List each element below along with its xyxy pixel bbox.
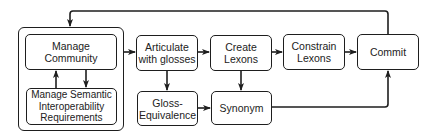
manage-community-node: Manage Community	[25, 34, 117, 70]
synonym-node: Synonym	[211, 91, 272, 125]
articulate-node: Articulate with glosses	[136, 35, 198, 71]
constrain-lexons-node: Constrain Lexons	[283, 34, 345, 70]
edge-synonym-to-commit	[272, 71, 388, 107]
manage-requirements-node: Manage Semantic Interoperability Require…	[26, 88, 117, 125]
gloss-equivalence-node: Gloss- Equivalence	[137, 91, 198, 126]
create-lexons-node: Create Lexons	[210, 35, 272, 71]
commit-node: Commit	[357, 34, 419, 70]
